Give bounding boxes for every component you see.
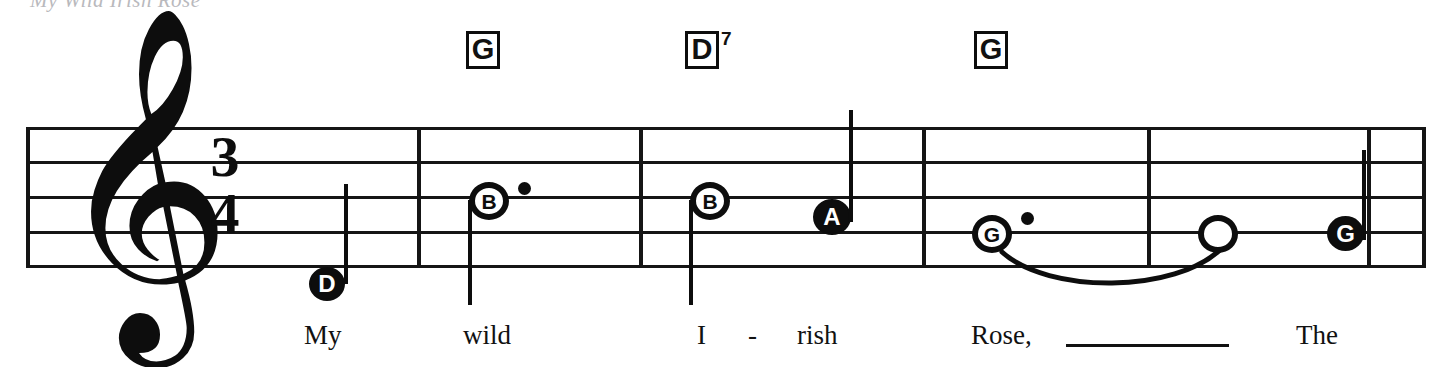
- augmentation-dot: [518, 182, 531, 195]
- barline-end: [1422, 127, 1426, 268]
- barline-start: [26, 127, 30, 268]
- notehead-letter: B: [469, 182, 509, 220]
- barline-2: [639, 127, 643, 268]
- notehead-letter: A: [813, 199, 851, 235]
- time-signature-beat-type: 4: [196, 190, 254, 239]
- barline-1: [417, 127, 421, 268]
- melisma-line: [1066, 344, 1229, 347]
- notehead-letter: G: [1327, 216, 1364, 251]
- note-stem: [344, 184, 348, 284]
- lyric-rish: rish: [797, 322, 838, 349]
- note-stem: [849, 110, 853, 222]
- chord-symbol-g-1[interactable]: G: [466, 31, 502, 69]
- lyric-my: My: [304, 322, 342, 349]
- tie-slur: [1000, 246, 1224, 294]
- barline-3: [922, 127, 926, 268]
- chord-root-letter: G: [974, 31, 1008, 69]
- notehead-letter: D: [309, 267, 345, 301]
- note-stem: [468, 200, 472, 305]
- augmentation-dot: [1021, 212, 1034, 225]
- chord-root-letter: G: [466, 31, 500, 69]
- lyric-the: The: [1296, 322, 1338, 349]
- notehead-letter: B: [690, 182, 730, 220]
- lyric-wild: wild: [463, 322, 511, 349]
- lyric-hyphen: -: [748, 322, 757, 349]
- chord-symbol-g-2[interactable]: G: [974, 31, 1010, 69]
- lyric-i: I: [697, 322, 706, 349]
- sheet-music-page: My Wild Irish Rose G D 7 G 𝄞 3 4 D B: [0, 0, 1454, 367]
- time-signature-beats: 3: [196, 133, 254, 182]
- chord-extension: 7: [721, 29, 732, 48]
- lyric-rose: Rose,: [971, 322, 1032, 349]
- note-stem: [689, 200, 693, 305]
- chord-root-letter: D: [685, 31, 719, 69]
- barline-5: [1367, 127, 1371, 268]
- notehead-letter: [1198, 215, 1238, 253]
- chord-symbol-d7[interactable]: D 7: [685, 31, 732, 69]
